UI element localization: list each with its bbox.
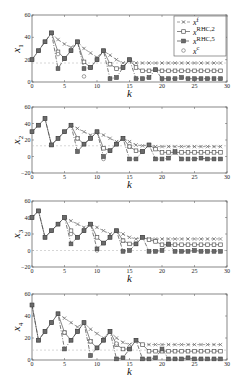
y-tick-label: 60 (25, 198, 31, 204)
x-tick-label: 30 (224, 83, 230, 89)
y-axis-label: x2 (10, 135, 25, 145)
x-tick-label: 20 (159, 174, 165, 180)
x-tick-label: 0 (31, 174, 34, 180)
x-tick-label: 10 (94, 174, 100, 180)
y-tick-label: 60 (25, 104, 31, 110)
y-tick-label: 40 (25, 313, 31, 319)
x-tick-label: 30 (224, 174, 230, 180)
x-tick-label: 30 (224, 268, 230, 274)
y-tick-label: −20 (21, 170, 30, 176)
x-tick-label: 25 (192, 174, 198, 180)
figure: 0510152025300204060kx1051015202530−20020… (0, 0, 245, 392)
x-tick-label: 20 (159, 361, 165, 367)
x-tick-label: 10 (94, 83, 100, 89)
x-tick-label: 0 (31, 268, 34, 274)
x-tick-label: 30 (224, 361, 230, 367)
x-tick-label: 5 (63, 174, 66, 180)
x-tick-label: 25 (192, 361, 198, 367)
subplot-4: 0510152025300204060kx4 (10, 291, 230, 377)
y-tick-label: 0 (28, 154, 31, 160)
y-tick-label: 60 (25, 12, 31, 18)
x-tick-label: 5 (63, 361, 66, 367)
y-tick-label: 40 (25, 34, 31, 40)
y-tick-label: 20 (25, 137, 31, 143)
x-tick-label: 5 (63, 268, 66, 274)
x-tick-label: 0 (31, 83, 34, 89)
x-tick-label: 20 (159, 268, 165, 274)
x-tick-label: 5 (63, 83, 66, 89)
subplot-2: 051015202530−200204060kx2 (10, 104, 230, 190)
y-tick-label: 20 (25, 231, 31, 237)
y-tick-label: 0 (28, 248, 31, 254)
y-tick-label: 60 (25, 291, 31, 297)
x-tick-label: 10 (94, 268, 100, 274)
axes-box (32, 201, 227, 267)
y-axis-label: x4 (10, 322, 25, 332)
legend: xfxRHC,2xRHC,5xc (174, 16, 226, 57)
x-tick-label: 10 (94, 361, 100, 367)
y-tick-label: −20 (21, 264, 30, 270)
x-tick-label: 25 (192, 268, 198, 274)
axes-box (32, 107, 227, 173)
y-axis-label: x1 (10, 44, 25, 54)
y-axis-label: x3 (10, 229, 25, 239)
y-tick-label: 40 (25, 215, 31, 221)
x-tick-label: 20 (159, 83, 165, 89)
y-tick-label: 40 (25, 121, 31, 127)
x-tick-label: 0 (31, 361, 34, 367)
y-tick-label: 0 (28, 357, 31, 363)
x-tick-label: 25 (192, 83, 198, 89)
subplot-3: 051015202530−200204060kx3 (10, 198, 230, 284)
y-tick-label: 0 (28, 79, 31, 85)
y-tick-label: 20 (25, 57, 31, 63)
y-tick-label: 20 (25, 335, 31, 341)
